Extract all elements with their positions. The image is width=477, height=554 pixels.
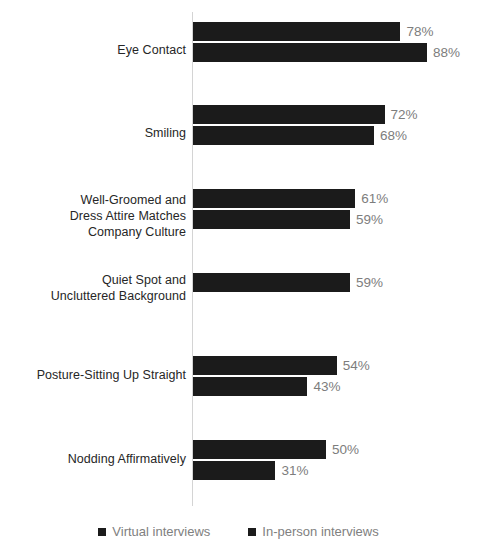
bar-row[interactable]: 50% [193, 440, 477, 459]
bar-value-label: 61% [355, 189, 388, 208]
bar-stack: 72%68% [193, 105, 477, 145]
square-marker-icon [248, 528, 256, 536]
square-marker-icon [98, 528, 106, 536]
bar[interactable] [193, 105, 385, 124]
category-label: Smiling [6, 125, 186, 141]
category-label-line: Uncluttered Background [6, 288, 186, 304]
bar-value-label: 59% [350, 273, 383, 292]
bar-value-label: 50% [326, 440, 359, 459]
category-label-line: Eye Contact [6, 42, 186, 58]
bar-value-label: 88% [427, 43, 460, 62]
legend-label: Virtual interviews [112, 524, 210, 539]
bar[interactable] [193, 210, 350, 229]
bar[interactable] [193, 440, 326, 459]
category-label-line: Quiet Spot and [6, 272, 186, 288]
bar-value-label: 68% [374, 126, 407, 145]
category-label: Nodding Affirmatively [6, 451, 186, 467]
bar-row[interactable]: 59% [193, 273, 477, 292]
plot-area: Eye Contact78%88%Smiling72%68%Well-Groom… [0, 0, 477, 512]
bar[interactable] [193, 273, 350, 292]
bar-stack: 54%43% [193, 356, 477, 396]
bar-stack: 61%59% [193, 189, 477, 229]
bar[interactable] [193, 377, 307, 396]
bar-stack: 78%88% [193, 22, 477, 62]
category-label: Posture-Sitting Up Straight [6, 367, 186, 383]
category-axis-line [192, 12, 193, 506]
bar-row[interactable]: 72% [193, 105, 477, 124]
bar-row[interactable]: 78% [193, 22, 477, 41]
bar-row[interactable]: 88% [193, 43, 477, 62]
bar-stack: 59% [193, 273, 477, 292]
bar[interactable] [193, 22, 400, 41]
legend-item[interactable]: Virtual interviews [98, 524, 210, 539]
bar-value-label: 78% [400, 22, 433, 41]
legend-label: In-person interviews [262, 524, 378, 539]
category-label: Eye Contact [6, 42, 186, 58]
bar-row[interactable]: 43% [193, 377, 477, 396]
bar-value-label: 72% [385, 105, 418, 124]
category-label: Quiet Spot andUncluttered Background [6, 272, 186, 304]
category-label: Well-Groomed andDress Attire MatchesComp… [6, 192, 186, 240]
bar-value-label: 54% [337, 356, 370, 375]
bar[interactable] [193, 356, 337, 375]
bar-chart: Eye Contact78%88%Smiling72%68%Well-Groom… [0, 0, 477, 554]
chart-legend: Virtual interviewsIn-person interviews [0, 524, 477, 539]
bar-row[interactable]: 31% [193, 461, 477, 480]
bar-value-label: 31% [275, 461, 308, 480]
bar[interactable] [193, 43, 427, 62]
bar-value-label: 43% [307, 377, 340, 396]
category-label-line: Posture-Sitting Up Straight [6, 367, 186, 383]
category-label-line: Nodding Affirmatively [6, 451, 186, 467]
bar-row[interactable]: 68% [193, 126, 477, 145]
category-label-line: Company Culture [6, 224, 186, 240]
category-label-line: Smiling [6, 125, 186, 141]
bar[interactable] [193, 189, 355, 208]
legend-item[interactable]: In-person interviews [248, 524, 378, 539]
category-label-line: Well-Groomed and [6, 192, 186, 208]
bar-row[interactable]: 54% [193, 356, 477, 375]
bar-value-label: 59% [350, 210, 383, 229]
category-label-line: Dress Attire Matches [6, 208, 186, 224]
bar[interactable] [193, 461, 275, 480]
bar-row[interactable]: 59% [193, 210, 477, 229]
bar[interactable] [193, 126, 374, 145]
bar-stack: 50%31% [193, 440, 477, 480]
bar-row[interactable]: 61% [193, 189, 477, 208]
